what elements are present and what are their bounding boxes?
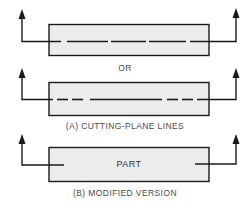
arrow-up-icon <box>19 134 26 144</box>
arrow-up-icon <box>233 8 240 18</box>
caption-a: (A) CUTTING-PLANE LINES <box>0 121 250 131</box>
view-a2 <box>19 68 240 116</box>
arrow-up-icon <box>19 9 26 19</box>
part-label: PART <box>49 159 209 169</box>
part-rectangle <box>49 25 209 56</box>
cutting-plane-diagram <box>0 0 250 210</box>
view-a1 <box>19 8 240 56</box>
arrow-up-icon <box>233 134 240 144</box>
view-b <box>19 134 240 182</box>
caption-b: (B) MODIFIED VERSION <box>0 188 250 198</box>
separator-or-label: OR <box>0 63 250 73</box>
